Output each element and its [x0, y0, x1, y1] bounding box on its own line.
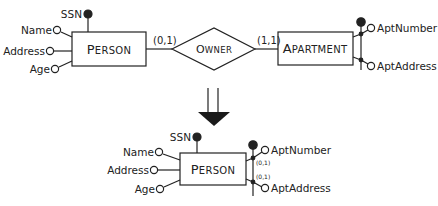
aptnumber-attribute-circle-icon	[367, 24, 374, 31]
name-attribute-circle-icon-merged	[155, 148, 162, 155]
age-label: Age	[30, 63, 50, 75]
address-label: Address	[3, 45, 45, 57]
age-link	[59, 61, 72, 67]
age-attribute-circle-icon-merged	[156, 185, 163, 192]
apartment-identifier-dot-icon	[357, 18, 365, 26]
aptnumber-cardinality-merged: (0,1)	[256, 159, 270, 166]
name-link	[61, 32, 72, 37]
age-label-merged: Age	[135, 183, 155, 195]
aptaddress-label-merged: AptAddress	[271, 182, 331, 194]
er-diagram-canvas: SSN Name Address Age PERSON (0,1) OWNER …	[0, 0, 438, 206]
aptnumber-label: AptNumber	[377, 22, 438, 34]
name-attribute-circle-icon	[53, 26, 60, 33]
person-entity-label-merged: PERSON	[191, 162, 236, 177]
apartment-entity-label: APARTMENT	[283, 41, 348, 56]
down-arrow-icon	[198, 88, 230, 126]
address-attribute-circle-icon-merged	[150, 166, 157, 173]
top-diagram	[46, 10, 374, 73]
aptaddress-junction-dot-icon	[359, 58, 363, 62]
ssn-label-merged: SSN	[170, 131, 191, 143]
aptnumber-label-merged: AptNumber	[271, 144, 332, 156]
address-attribute-circle-icon	[46, 47, 53, 54]
aptaddress-attribute-circle-icon-merged	[261, 184, 268, 191]
owner-relationship-label: OWNER	[196, 43, 232, 56]
name-link-merged	[163, 154, 180, 160]
age-link-merged	[164, 180, 180, 187]
age-attribute-circle-icon	[51, 65, 58, 72]
ssn-label: SSN	[61, 8, 82, 20]
name-label: Name	[21, 24, 52, 36]
aptnumber-attribute-circle-icon-merged	[261, 146, 268, 153]
aptaddress-cardinality-merged: (0,1)	[256, 173, 270, 180]
ssn-identifier-dot-icon-merged	[193, 133, 201, 141]
ssn-identifier-dot-icon	[84, 10, 92, 18]
aptaddress-label: AptAddress	[377, 60, 437, 72]
person-owner-cardinality: (0,1)	[153, 35, 177, 46]
name-label-merged: Name	[123, 146, 154, 158]
aptaddress-junction-dot-icon-merged	[251, 180, 255, 184]
aptnumber-junction-dot-icon-merged	[251, 156, 255, 160]
address-label-merged: Address	[107, 164, 149, 176]
owner-apartment-cardinality: (1,1)	[257, 35, 281, 46]
person-entity-label: PERSON	[87, 42, 132, 57]
apt-identifier-dot-icon-merged	[249, 141, 257, 149]
aptaddress-attribute-circle-icon	[367, 62, 374, 69]
aptnumber-junction-dot-icon	[359, 32, 363, 36]
